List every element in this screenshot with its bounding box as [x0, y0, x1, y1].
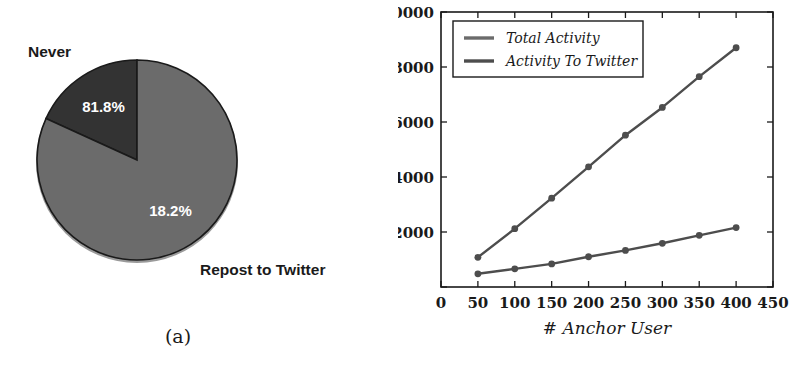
pie-value-label-repost-to-twitter: 81.8%: [82, 98, 125, 115]
panel-a-pie-chart: 81.8% 18.2% Never Repost to Twitter (a): [0, 0, 398, 377]
x-axis-tick-labels: 050100150200250300350400450: [436, 294, 789, 312]
data-point-marker: [474, 270, 481, 277]
line-chart-svg: 050100150200250300350400450 200040006000…: [398, 0, 796, 377]
x-tick-label: 150: [536, 294, 567, 312]
data-point-marker: [548, 195, 555, 202]
data-point-marker: [548, 261, 555, 268]
legend: Total Activity Activity To Twitter: [453, 21, 643, 77]
x-tick-label: 50: [467, 294, 488, 312]
panel-b-line-chart: 050100150200250300350400450 200040006000…: [398, 0, 796, 377]
data-point-marker: [733, 44, 740, 51]
y-tick-label: 2000: [398, 224, 434, 242]
y-axis-tick-labels: 200040006000800010000: [398, 4, 434, 242]
x-tick-label: 0: [436, 294, 446, 312]
legend-label-total-activity: Total Activity: [506, 30, 601, 46]
data-point-marker: [585, 253, 592, 260]
data-point-marker: [696, 73, 703, 80]
data-point-marker: [511, 225, 518, 232]
y-tick-label: 4000: [398, 169, 434, 187]
data-point-marker: [659, 240, 666, 247]
y-tick-label: 10000: [398, 4, 434, 22]
legend-label-activity-to-twitter: Activity To Twitter: [504, 53, 638, 69]
subcaption-a: (a): [118, 325, 238, 347]
data-point-marker: [511, 265, 518, 272]
x-tick-label: 400: [720, 294, 751, 312]
x-tick-label: 300: [647, 294, 678, 312]
pie-value-label-never: 18.2%: [149, 202, 192, 219]
x-tick-label: 200: [573, 294, 604, 312]
y-tick-label: 8000: [398, 59, 434, 77]
x-tick-label: 250: [610, 294, 641, 312]
x-tick-label: 450: [757, 294, 788, 312]
x-tick-label: 350: [684, 294, 715, 312]
pie-category-label-never: Never: [28, 43, 71, 60]
pie-category-label-repost-to-twitter: Repost to Twitter: [200, 261, 325, 278]
y-tick-label: 6000: [398, 114, 434, 132]
pie-chart-svg: 81.8% 18.2% Never Repost to Twitter: [0, 0, 398, 377]
data-point-marker: [622, 247, 629, 254]
data-point-marker: [585, 163, 592, 170]
data-point-marker: [474, 254, 481, 261]
data-point-marker: [696, 232, 703, 239]
data-point-marker: [733, 224, 740, 231]
data-point-marker: [659, 104, 666, 111]
x-tick-label: 100: [499, 294, 530, 312]
x-axis-title: # Anchor User: [543, 318, 672, 338]
data-point-marker: [622, 132, 629, 139]
figure-container: 81.8% 18.2% Never Repost to Twitter (a) …: [0, 0, 796, 377]
